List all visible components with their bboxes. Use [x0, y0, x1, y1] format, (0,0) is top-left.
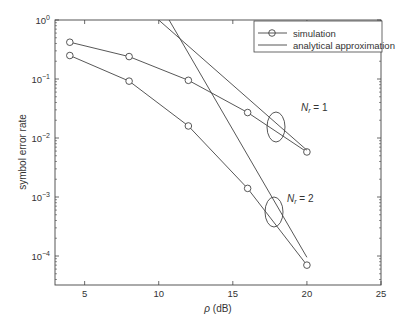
- svg-text:Nr = 1: Nr = 1: [301, 102, 328, 114]
- legend-analytical: analytical approximation: [293, 40, 395, 51]
- legend: simulation analytical approximation: [254, 21, 395, 52]
- plot-area: 51015202510010−110−210−310−4: [31, 14, 386, 300]
- y-tick-label: 10−1: [31, 73, 50, 85]
- circle-marker-icon: [244, 109, 251, 116]
- circle-marker-icon: [67, 52, 74, 59]
- circle-marker-icon: [67, 39, 74, 46]
- y-axis-label: symbol error rate: [17, 114, 28, 190]
- x-axis-label: ρ (dB): [203, 303, 231, 314]
- circle-marker-icon: [126, 78, 133, 85]
- legend-simulation: simulation: [293, 28, 336, 39]
- circle-marker-icon: [185, 123, 192, 130]
- y-tick-label: 10−2: [31, 132, 50, 144]
- x-tick-label: 5: [82, 288, 87, 299]
- y-tick-label: 100: [36, 14, 51, 26]
- series-line: [70, 42, 307, 152]
- x-tick-label: 10: [153, 288, 164, 299]
- svg-text:Nr = 2: Nr = 2: [287, 193, 314, 205]
- circle-marker-icon: [126, 53, 133, 60]
- x-tick-label: 25: [376, 288, 387, 299]
- x-tick-label: 15: [228, 288, 239, 299]
- axes-box: [55, 20, 381, 285]
- annotation-nr1: Nr = 1: [267, 102, 328, 142]
- circle-marker-icon: [185, 77, 192, 84]
- y-tick-label: 10−3: [31, 191, 50, 203]
- circle-marker-icon: [304, 262, 311, 269]
- x-tick-label: 20: [302, 288, 313, 299]
- y-tick-label: 10−4: [31, 250, 50, 262]
- circle-marker-icon: [244, 185, 251, 192]
- series-line: [70, 56, 307, 266]
- ser-chart: 51015202510010−110−210−310−4 ρ (dB) symb…: [0, 0, 399, 325]
